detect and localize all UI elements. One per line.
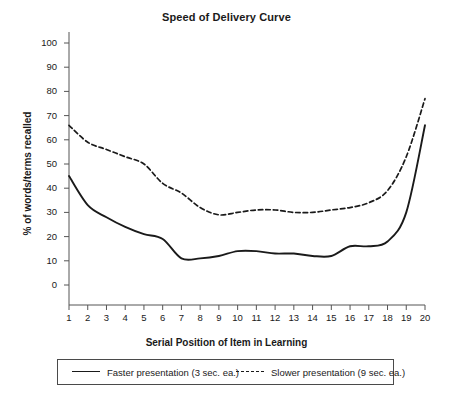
series-line-slower — [69, 99, 425, 215]
dashed-line-swatch-icon — [236, 367, 264, 377]
series-line-faster — [69, 125, 425, 260]
legend-item-slower: Slower presentation (9 sec. ea.) — [236, 360, 405, 384]
x-tick-label: 15 — [322, 313, 340, 323]
x-tick-label: 4 — [116, 313, 134, 323]
y-tick-label: 70 — [29, 111, 57, 121]
x-tick-label: 19 — [397, 313, 415, 323]
x-tick-label: 3 — [97, 313, 115, 323]
y-tick-label: 0 — [29, 280, 57, 290]
solid-line-swatch-icon — [72, 367, 100, 377]
legend-label-faster: Faster presentation (3 sec. ea.) — [107, 367, 239, 378]
y-tick-label: 40 — [29, 183, 57, 193]
x-tick-label: 7 — [172, 313, 190, 323]
plot-area — [0, 0, 453, 406]
y-tick-label: 10 — [29, 256, 57, 266]
y-tick-label: 90 — [29, 62, 57, 72]
x-tick-label: 9 — [210, 313, 228, 323]
x-tick-label: 14 — [304, 313, 322, 323]
x-tick-label: 10 — [229, 313, 247, 323]
x-tick-label: 18 — [379, 313, 397, 323]
x-tick-label: 8 — [191, 313, 209, 323]
x-tick-label: 1 — [60, 313, 78, 323]
data-series-group — [69, 99, 425, 260]
x-tick-label: 20 — [416, 313, 434, 323]
x-tick-label: 6 — [154, 313, 172, 323]
x-tick-label: 5 — [135, 313, 153, 323]
x-tick-label: 12 — [266, 313, 284, 323]
y-tick-label: 50 — [29, 159, 57, 169]
y-tick-label: 80 — [29, 86, 57, 96]
y-tick-label: 30 — [29, 207, 57, 217]
x-tick-label: 2 — [79, 313, 97, 323]
y-tick-label: 60 — [29, 135, 57, 145]
x-tick-label: 17 — [360, 313, 378, 323]
legend-label-slower: Slower presentation (9 sec. ea.) — [271, 367, 405, 378]
x-tick-label: 13 — [285, 313, 303, 323]
y-tick-label: 100 — [29, 38, 57, 48]
x-tick-label: 11 — [247, 313, 265, 323]
y-tick-label: 20 — [29, 232, 57, 242]
chart-figure: Speed of Delivery Curve % of words/terms… — [0, 0, 453, 406]
legend-item-faster: Faster presentation (3 sec. ea.) — [72, 360, 239, 384]
x-tick-label: 16 — [341, 313, 359, 323]
axes — [64, 32, 425, 310]
chart-legend: Faster presentation (3 sec. ea.) Slower … — [57, 359, 394, 385]
